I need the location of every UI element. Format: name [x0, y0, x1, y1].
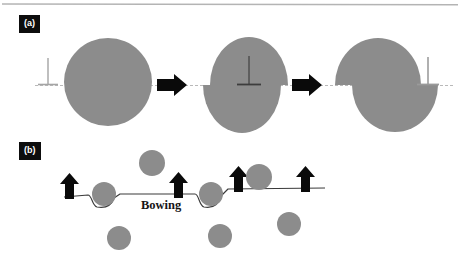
- free-particle-below-1: [107, 226, 131, 250]
- free-particle-above-2: [246, 164, 272, 190]
- pinning-particle-1: [92, 182, 116, 206]
- panel-label-a: (a): [19, 15, 40, 33]
- figure-container: (a) (b) Bowing: [0, 0, 460, 261]
- force-arrow-3: [229, 166, 248, 192]
- force-arrow-1: [60, 173, 79, 199]
- transition-arrow-2: [292, 74, 322, 96]
- panel-b-group: [60, 150, 325, 250]
- stage-1-particle: [64, 38, 152, 126]
- transition-arrow-1: [157, 74, 187, 96]
- dislocation-symbol-stage-1: [38, 58, 58, 85]
- panel-label-b: (b): [19, 142, 41, 160]
- pinning-particle-2: [199, 182, 223, 206]
- free-particle-below-2: [208, 224, 232, 248]
- top-rule: [2, 4, 458, 5]
- free-particle-above-1: [139, 150, 165, 176]
- free-particle-below-3: [277, 212, 301, 236]
- figure-canvas: [0, 0, 460, 261]
- panel-a-group: [35, 37, 455, 133]
- bowing-annotation-label: Bowing: [141, 198, 181, 213]
